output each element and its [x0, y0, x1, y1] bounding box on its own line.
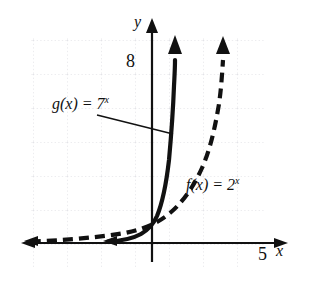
curve-f-label-exponent: x: [235, 175, 239, 186]
curve-g-label-base: g(x) = 7: [52, 95, 105, 112]
exponential-functions-graph: y x 8 5 g(x) = 7x f(x) = 2x: [0, 0, 309, 283]
curve-f-label: f(x) = 2x: [186, 177, 239, 193]
y-tick-label-8: 8: [126, 52, 135, 70]
x-axis-label: x: [276, 243, 283, 259]
curve-f-label-base: f(x) = 2: [186, 176, 235, 193]
plot-canvas: [0, 0, 309, 283]
y-axis-arrow-up: [146, 18, 158, 33]
x-tick-label-5: 5: [258, 245, 267, 263]
y-axis-label: y: [134, 14, 141, 30]
curve-g-label: g(x) = 7x: [52, 96, 109, 112]
grid-area: [31, 38, 265, 268]
curve-g-label-exponent: x: [105, 94, 109, 105]
